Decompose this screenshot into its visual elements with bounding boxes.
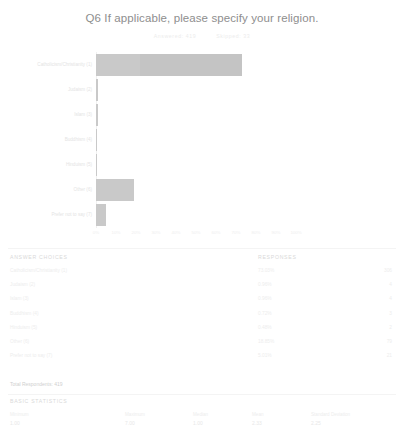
bar-row: Hinduism (5) bbox=[96, 154, 296, 176]
x-axis-tick: 100% bbox=[290, 230, 301, 235]
statistic-label: Maximum bbox=[125, 412, 145, 417]
row-label: Prefer not to say (7) bbox=[10, 353, 52, 358]
column-header-answer-choices: ANSWER CHOICES bbox=[10, 254, 68, 260]
answer-choices-table: ANSWER CHOICES RESPONSES Catholicism/Chr… bbox=[0, 252, 404, 364]
row-count: 2 bbox=[389, 325, 392, 330]
statistic-label: Mean bbox=[252, 412, 264, 417]
bar-category-label: Buddhism (4) bbox=[22, 137, 92, 143]
row-label: Catholicism/Christianity (1) bbox=[10, 268, 67, 273]
row-count: 4 bbox=[389, 282, 392, 287]
x-axis-tick: 10% bbox=[112, 230, 121, 235]
answered-count: Answered: 419 bbox=[154, 33, 196, 39]
x-axis-tick: 20% bbox=[132, 230, 141, 235]
bar-highlight bbox=[140, 54, 242, 76]
row-percent: 0.96% bbox=[258, 282, 272, 287]
row-percent: 0.48% bbox=[258, 325, 272, 330]
bar-row: Judaism (2) bbox=[96, 79, 296, 101]
bar bbox=[96, 129, 97, 151]
statistic-item: Maximum7.00 bbox=[125, 412, 145, 426]
row-label: Judaism (2) bbox=[10, 282, 35, 287]
row-label: Other (6) bbox=[10, 339, 29, 344]
x-axis-tick: 30% bbox=[152, 230, 161, 235]
statistic-label: Median bbox=[193, 412, 208, 417]
x-axis-tick: 50% bbox=[192, 230, 201, 235]
bar-chart: Catholicism/Christianity (1)Judaism (2)I… bbox=[0, 48, 404, 244]
statistic-value: 1.00 bbox=[10, 420, 29, 426]
statistic-label: Minimum bbox=[10, 412, 29, 417]
x-axis-tick: 80% bbox=[252, 230, 261, 235]
row-percent: 0.72% bbox=[258, 311, 272, 316]
statistic-value: 1.00 bbox=[193, 420, 208, 426]
x-axis-tick: 40% bbox=[172, 230, 181, 235]
x-axis-tick: 60% bbox=[212, 230, 221, 235]
bar-category-label: Catholicism/Christianity (1) bbox=[22, 61, 92, 67]
bar bbox=[96, 104, 98, 126]
column-header-responses: RESPONSES bbox=[258, 254, 297, 260]
divider-stats bbox=[8, 394, 396, 395]
statistic-label: Standard Deviation bbox=[311, 412, 350, 417]
table-row: Other (6)18.85%79 bbox=[0, 336, 404, 350]
page-title: Q6 If applicable, please specify your re… bbox=[0, 12, 404, 24]
statistic-value: 2.33 bbox=[252, 420, 264, 426]
row-label: Hinduism (5) bbox=[10, 325, 37, 330]
bar-row: Islam (3) bbox=[96, 104, 296, 126]
table-row: Hinduism (5)0.48%2 bbox=[0, 322, 404, 336]
table-row: Islam (3)0.96%4 bbox=[0, 293, 404, 307]
table-row: Buddhism (4)0.72%3 bbox=[0, 308, 404, 322]
row-count: 21 bbox=[387, 353, 392, 358]
table-header-row: ANSWER CHOICES RESPONSES bbox=[0, 252, 404, 265]
bar bbox=[96, 204, 106, 226]
row-label: Islam (3) bbox=[10, 296, 29, 301]
bar-row: Prefer not to say (7) bbox=[96, 204, 296, 226]
bar-category-label: Judaism (2) bbox=[22, 87, 92, 93]
bar-category-label: Islam (3) bbox=[22, 112, 92, 118]
row-count: 79 bbox=[387, 339, 392, 344]
bar bbox=[96, 79, 98, 101]
statistic-item: Mean2.33 bbox=[252, 412, 264, 426]
x-axis-tick: 70% bbox=[232, 230, 241, 235]
row-percent: 73.03% bbox=[258, 268, 274, 273]
survey-results-page: Q6 If applicable, please specify your re… bbox=[0, 0, 404, 436]
bar bbox=[96, 179, 134, 201]
plot-area: Catholicism/Christianity (1)Judaism (2)I… bbox=[96, 52, 296, 228]
statistic-item: Minimum1.00 bbox=[10, 412, 29, 426]
statistics-title: BASIC STATISTICS bbox=[10, 398, 67, 404]
bar-row: Buddhism (4) bbox=[96, 129, 296, 151]
bar-category-label: Hinduism (5) bbox=[22, 162, 92, 168]
row-count: 306 bbox=[384, 268, 392, 273]
x-axis-tick: 90% bbox=[272, 230, 281, 235]
table-row: Catholicism/Christianity (1)73.03%306 bbox=[0, 265, 404, 279]
x-axis: 0%10%20%30%40%50%60%70%80%90%100% bbox=[96, 230, 296, 242]
bar-row: Other (6) bbox=[96, 179, 296, 201]
statistic-item: Standard Deviation2.25 bbox=[311, 412, 350, 426]
bar bbox=[96, 154, 97, 176]
table-row: Judaism (2)0.96%4 bbox=[0, 279, 404, 293]
row-label: Buddhism (4) bbox=[10, 311, 39, 316]
row-percent: 5.01% bbox=[258, 353, 272, 358]
total-respondents: Total Respondents: 419 bbox=[10, 381, 63, 387]
row-percent: 18.85% bbox=[258, 339, 274, 344]
statistic-item: Median1.00 bbox=[193, 412, 208, 426]
row-count: 3 bbox=[389, 311, 392, 316]
row-count: 4 bbox=[389, 296, 392, 301]
response-meta: Answered: 419 Skipped: 33 bbox=[0, 33, 404, 39]
row-percent: 0.96% bbox=[258, 296, 272, 301]
statistic-value: 2.25 bbox=[311, 420, 350, 426]
divider-top bbox=[8, 248, 396, 249]
x-axis-tick: 0% bbox=[93, 230, 99, 235]
table-body: Catholicism/Christianity (1)73.03%306Jud… bbox=[0, 265, 404, 364]
skipped-count: Skipped: 33 bbox=[216, 33, 250, 39]
table-row: Prefer not to say (7)5.01%21 bbox=[0, 350, 404, 364]
bar-category-label: Other (6) bbox=[22, 187, 92, 193]
statistic-value: 7.00 bbox=[125, 420, 145, 426]
bar-row: Catholicism/Christianity (1) bbox=[96, 54, 296, 76]
bar-category-label: Prefer not to say (7) bbox=[22, 212, 92, 218]
